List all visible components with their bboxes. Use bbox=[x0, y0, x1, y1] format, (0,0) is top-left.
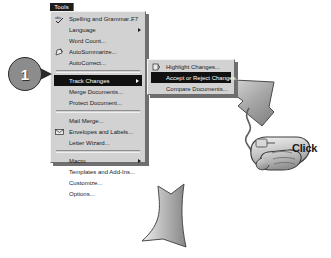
submenu-item-label: Highlight Changes... bbox=[166, 64, 220, 70]
illustration-canvas: Tools abc Spelling and Grammar... F7 Lan… bbox=[0, 0, 331, 258]
menu-item-templates-and-add-ins[interactable]: Templates and Add-Ins... bbox=[52, 166, 144, 177]
menu-item-spelling-and-grammar[interactable]: abc Spelling and Grammar... F7 bbox=[52, 13, 144, 24]
menu-item-language[interactable]: Language bbox=[52, 24, 144, 35]
svg-text:abc: abc bbox=[55, 15, 61, 20]
submenu-item-label: Compare Documents... bbox=[166, 86, 228, 92]
step-callout-badge: 1 bbox=[8, 57, 54, 93]
envelope-icon bbox=[55, 128, 64, 136]
menu-separator bbox=[56, 70, 140, 73]
spell-check-icon: abc bbox=[55, 15, 64, 23]
menu-item-customize[interactable]: Customize... bbox=[52, 177, 144, 188]
submenu-item-highlight-changes[interactable]: Highlight Changes... bbox=[149, 61, 233, 72]
menu-item-label: Spelling and Grammar... bbox=[69, 16, 134, 22]
menu-item-letter-wizard[interactable]: Letter Wizard... bbox=[52, 137, 144, 148]
menu-title-label: Tools bbox=[54, 4, 69, 10]
callout-step-number: 1 bbox=[8, 57, 42, 91]
submenu-arrow-icon bbox=[138, 28, 141, 32]
menu-item-envelopes-and-labels[interactable]: Envelopes and Labels... bbox=[52, 126, 144, 137]
highlight-changes-icon bbox=[152, 63, 161, 71]
menu-item-word-count[interactable]: Word Count... bbox=[52, 35, 144, 46]
click-annotation-label: Click bbox=[292, 142, 317, 154]
menu-item-label: Word Count... bbox=[69, 38, 106, 44]
menu-item-merge-documents[interactable]: Merge Documents... bbox=[52, 86, 144, 97]
menu-item-label: Merge Documents... bbox=[69, 89, 123, 95]
menu-item-label: Customize... bbox=[69, 180, 102, 186]
menu-item-label: Track Changes bbox=[69, 78, 109, 84]
menu-item-macro[interactable]: Macro bbox=[52, 155, 144, 166]
tools-menu-panel: abc Spelling and Grammar... F7 Language … bbox=[50, 11, 146, 163]
menu-item-label: AutoSummarize... bbox=[69, 49, 117, 55]
menu-item-track-changes[interactable]: Track Changes bbox=[54, 75, 142, 86]
menu-item-label: Templates and Add-Ins... bbox=[69, 169, 135, 175]
menu-item-label: AutoCorrect... bbox=[69, 60, 106, 66]
submenu-item-label: Accept or Reject Changes... bbox=[166, 75, 241, 81]
menu-separator bbox=[56, 150, 140, 153]
menu-item-autosummarize[interactable]: AutoSummarize... bbox=[52, 46, 144, 57]
submenu-arrow-icon bbox=[136, 79, 139, 83]
menu-item-label: Macro bbox=[69, 158, 86, 164]
tools-menu-list: abc Spelling and Grammar... F7 Language … bbox=[52, 13, 144, 161]
menu-item-label: Language bbox=[69, 27, 96, 33]
menu-item-mail-merge[interactable]: Mail Merge... bbox=[52, 115, 144, 126]
menu-item-label: Envelopes and Labels... bbox=[69, 129, 133, 135]
auto-summarize-icon bbox=[55, 48, 64, 56]
submenu-item-accept-or-reject-changes[interactable]: Accept or Reject Changes... bbox=[151, 72, 231, 83]
track-changes-submenu-list: Highlight Changes... Accept or Reject Ch… bbox=[149, 61, 233, 93]
menu-item-options[interactable]: Options... bbox=[52, 188, 144, 199]
menu-item-protect-document[interactable]: Protect Document... bbox=[52, 97, 144, 108]
submenu-item-compare-documents[interactable]: Compare Documents... bbox=[149, 83, 233, 94]
menu-separator bbox=[56, 110, 140, 113]
track-changes-submenu-panel: Highlight Changes... Accept or Reject Ch… bbox=[147, 59, 235, 95]
menu-item-autocorrect[interactable]: AutoCorrect... bbox=[52, 57, 144, 68]
menu-item-accelerator: F7 bbox=[131, 16, 138, 22]
menu-item-label: Letter Wizard... bbox=[69, 140, 110, 146]
submenu-arrow-icon bbox=[138, 159, 141, 163]
menu-item-label: Protect Document... bbox=[69, 100, 122, 106]
menu-item-label: Mail Merge... bbox=[69, 118, 104, 124]
menu-item-label: Options... bbox=[69, 191, 95, 197]
